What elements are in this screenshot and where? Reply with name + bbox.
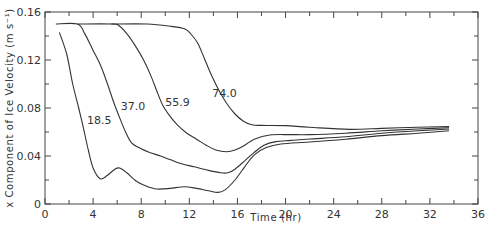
x-tick-label: 28 [375,208,389,221]
x-tick-label: 12 [182,208,196,221]
curve-37-0 [56,23,449,173]
data-curves [56,23,449,192]
curve-label-55-9: 55.9 [165,96,190,109]
y-tick-label: 0.16 [17,6,42,19]
curve-label-74-0: 74.0 [212,87,237,100]
y-axis-title: x Component of Ice Velocity (m s⁻¹) [4,8,15,208]
x-axis-title: Time (hr) [249,212,301,223]
curve-label-37-0: 37.0 [121,100,145,113]
x-tick-label: 32 [423,208,437,221]
y-tick-label: 0.04 [17,150,42,163]
axis-ticks [45,12,478,204]
x-tick-label: 8 [138,208,145,221]
plot-frame [45,12,478,204]
x-tick-label: 0 [42,208,49,221]
x-tick-label: 24 [327,208,341,221]
curve-labels: 18.537.055.974.0 [87,87,237,126]
y-axis-tick-labels: 00.040.080.120.16 [17,6,42,211]
curve-74-0 [111,24,449,130]
y-tick-label: 0.08 [17,102,42,115]
x-tick-label: 4 [90,208,97,221]
x-tick-label: 16 [230,208,244,221]
y-tick-label: 0 [34,198,41,211]
x-tick-label: 36 [471,208,485,221]
plot-border [45,12,478,204]
curve-label-18-5: 18.5 [87,114,112,127]
line-chart: 04812162024283236 00.040.080.120.16 18.5… [0,0,487,239]
y-tick-label: 0.12 [17,54,42,67]
